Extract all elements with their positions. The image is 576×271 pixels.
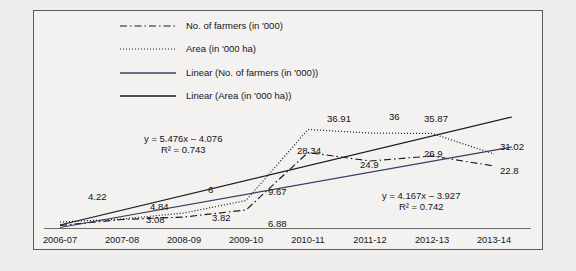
legend-item-linear-farmers[interactable]: Linear (No. of farmers (in '000)) [186,67,318,78]
data-label-farmers-2012-13: 26.9 [424,148,443,159]
annotation-area-equation: y = 5.476x – 4.076 R² = 0.743 [144,133,222,155]
data-label-farmers-2009-10: 6.88 [268,218,287,229]
data-label-farmers-2011-12: 24.9 [360,159,379,170]
x-tick-2009-10: 2009-10 [218,235,274,245]
data-label-farmers-2007-08: 3.08 [146,214,165,225]
data-label-area-2008-09: 6 [208,184,213,195]
data-label-area-2006-07: 4.22 [88,191,107,202]
annotation-area-equation-text: y = 5.476x – 4.076 [144,133,222,144]
annotation-farmers-equation: y = 4.167x – 3.927 R² = 0.742 [382,190,460,212]
data-label-farmers-2010-11: 28.34 [297,145,321,156]
chart-figure: No. of farmers (in '000) Area (in '000 h… [0,0,576,271]
x-tick-2010-11: 2010-11 [280,235,336,245]
legend-item-linear-area[interactable]: Linear (Area (in '000 ha)) [186,90,291,101]
x-tick-2007-08: 2007-08 [94,235,150,245]
annotation-farmers-equation-text: y = 4.167x – 3.927 [382,190,460,201]
legend-item-area[interactable]: Area (in '000 ha) [186,43,256,54]
chart-plot-area [0,0,576,271]
x-tick-2008-09: 2008-09 [156,235,212,245]
data-label-area-2013-14: 31.02 [500,141,524,152]
data-label-farmers-2008-09: 3.82 [212,212,231,223]
x-tick-2013-14: 2013-14 [466,235,522,245]
data-label-area-2010-11: 36.91 [327,113,351,124]
annotation-farmers-r2: R² = 0.742 [382,201,460,212]
legend-item-farmers[interactable]: No. of farmers (in '000) [186,20,283,31]
data-label-farmers-2013-14: 22.8 [500,165,519,176]
data-label-area-2012-13: 35.87 [424,113,448,124]
x-tick-2011-12: 2011-12 [342,235,398,245]
data-label-area-2007-08: 4.84 [150,201,169,212]
annotation-area-r2: R² = 0.743 [144,144,222,155]
x-tick-2006-07: 2006-07 [32,235,88,245]
x-tick-2012-13: 2012-13 [404,235,460,245]
data-label-area-2011-12: 36 [389,111,400,122]
data-label-area-2009-10: 9.67 [268,186,287,197]
